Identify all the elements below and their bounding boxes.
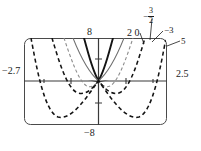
fraction-denominator: 2 [148, 17, 154, 25]
curve-label-c5: 5 [181, 37, 186, 46]
leader-line-c5 [167, 41, 180, 46]
curve-label-c-three-halves: −32 [143, 7, 154, 26]
curve-label-c0: 2 0 [127, 28, 140, 38]
fraction-three-halves: 32 [148, 7, 154, 26]
graph-figure [0, 0, 201, 151]
y-min-label: −8 [84, 128, 95, 138]
y-max-label: 8 [87, 27, 92, 37]
x-max-label: 2.5 [176, 69, 189, 79]
x-min-label: −2.7 [2, 66, 20, 76]
fraction-numerator: 3 [148, 7, 154, 15]
curve-label-c-3: −3 [164, 26, 174, 35]
